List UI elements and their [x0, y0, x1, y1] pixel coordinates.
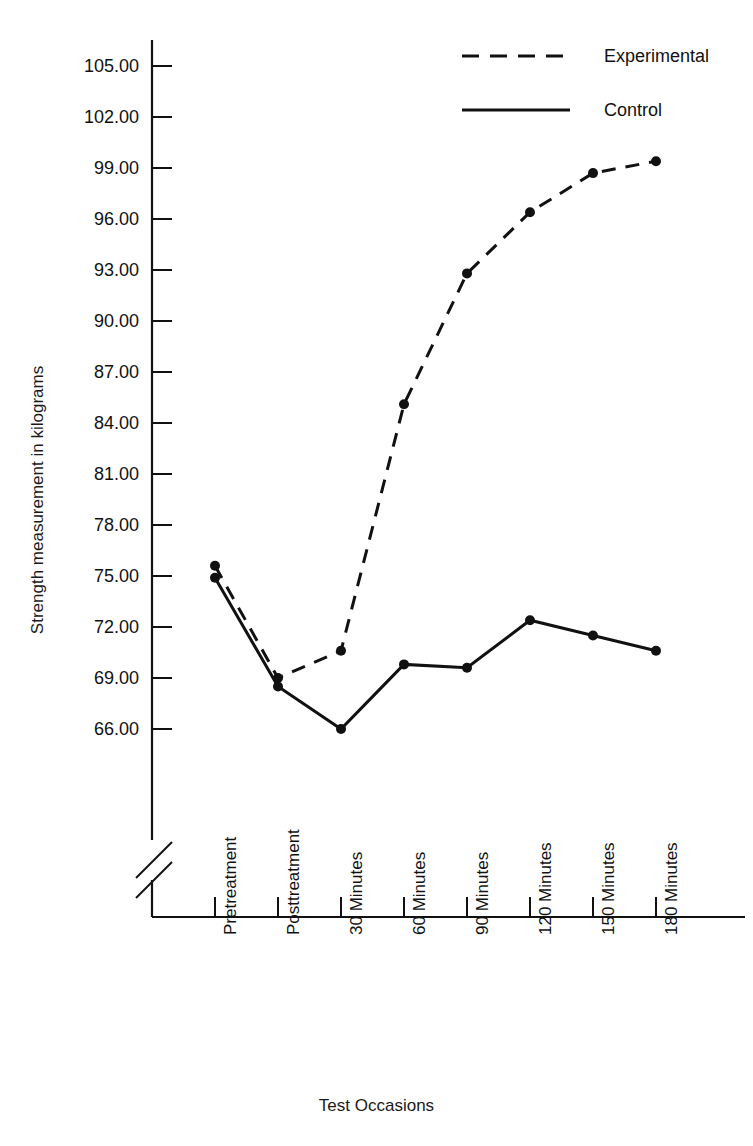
y-tick-label: 105.00 — [49, 57, 139, 75]
data-point-control — [588, 631, 598, 641]
data-point-experimental — [651, 156, 661, 166]
y-tick-label: 66.00 — [49, 720, 139, 738]
data-point-experimental — [462, 268, 472, 278]
y-tick-label: 72.00 — [49, 618, 139, 636]
data-point-experimental — [525, 207, 535, 217]
y-axis-title: Strength measurement in kilograms — [28, 320, 48, 680]
series-line-experimental — [215, 161, 656, 678]
data-point-control — [273, 682, 283, 692]
series-layer — [210, 156, 661, 734]
x-tick-label: 120 Minutes — [537, 842, 554, 935]
y-tick-label: 87.00 — [49, 363, 139, 381]
x-tick-label: 90 Minutes — [474, 852, 491, 935]
y-tick-marks — [152, 66, 172, 729]
x-axis-title: Test Occasions — [0, 1096, 753, 1116]
series-line-control — [215, 578, 656, 729]
data-point-experimental — [210, 561, 220, 571]
data-point-control — [651, 646, 661, 656]
data-point-experimental — [588, 168, 598, 178]
x-tick-label: 180 Minutes — [663, 842, 680, 935]
axis-break-icon — [136, 842, 172, 898]
x-tick-label: 60 Minutes — [411, 852, 428, 935]
y-tick-label: 99.00 — [49, 159, 139, 177]
y-tick-label: 96.00 — [49, 210, 139, 228]
legend-label-experimental: Experimental — [604, 47, 709, 65]
chart-figure: Strength measurement in kilograms Test O… — [0, 0, 753, 1146]
x-tick-label: 30 Minutes — [348, 852, 365, 935]
y-tick-label: 84.00 — [49, 414, 139, 432]
data-point-control — [462, 663, 472, 673]
data-point-experimental — [399, 399, 409, 409]
legend-label-control: Control — [604, 101, 662, 119]
y-tick-label: 81.00 — [49, 465, 139, 483]
x-tick-marks — [215, 897, 656, 917]
data-point-experimental — [336, 646, 346, 656]
y-tick-label: 69.00 — [49, 669, 139, 687]
data-point-control — [525, 615, 535, 625]
data-point-control — [210, 573, 220, 583]
y-tick-label: 78.00 — [49, 516, 139, 534]
y-tick-label: 75.00 — [49, 567, 139, 585]
x-tick-label: Pretreatment — [222, 837, 239, 935]
y-tick-label: 93.00 — [49, 261, 139, 279]
y-tick-label: 102.00 — [49, 108, 139, 126]
x-tick-label: 150 Minutes — [600, 842, 617, 935]
data-point-control — [336, 724, 346, 734]
y-tick-label: 90.00 — [49, 312, 139, 330]
data-point-control — [399, 659, 409, 669]
x-tick-label: Posttreatment — [285, 829, 302, 935]
